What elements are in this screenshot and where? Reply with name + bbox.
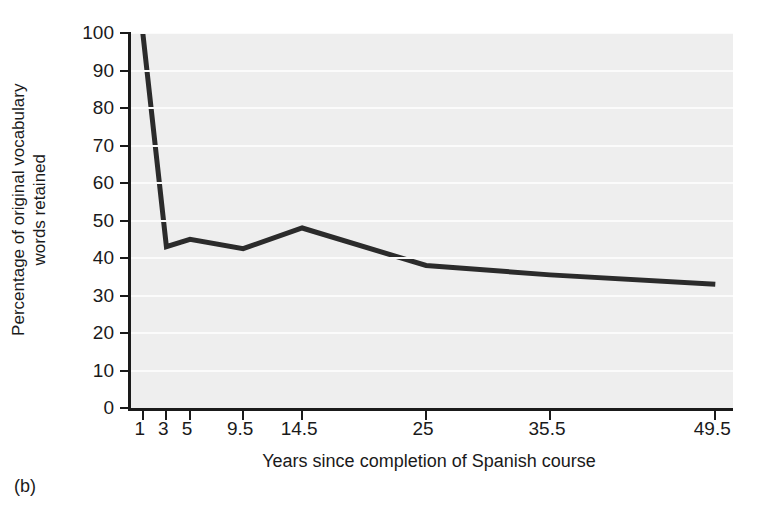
- y-axis-title: Percentage of original vocabulary words …: [0, 0, 60, 420]
- y-axis-tick-label: 50: [93, 210, 114, 232]
- gridline: [131, 370, 733, 372]
- y-axis-title-line-2: words retained: [30, 84, 51, 336]
- gridline: [131, 220, 733, 222]
- x-axis-tick-label: 5: [182, 418, 193, 440]
- y-axis-tick-labels: 0102030405060708090100: [62, 33, 120, 408]
- x-axis-title: Years since completion of Spanish course: [128, 451, 730, 472]
- x-axis-tick-label: 49.5: [694, 418, 731, 440]
- y-axis-tick-label: 100: [82, 22, 114, 44]
- y-axis-tick-label: 40: [93, 247, 114, 269]
- x-axis-tick-label: 9.5: [227, 418, 253, 440]
- plot-inner: [131, 33, 733, 408]
- y-axis-tick-label: 80: [93, 97, 114, 119]
- x-axis-tick-label: 35.5: [529, 418, 566, 440]
- y-axis-tick-label: 10: [93, 360, 114, 382]
- gridline: [131, 257, 733, 259]
- gridline: [131, 107, 733, 109]
- x-axis-tick-label: 14.5: [281, 418, 318, 440]
- gridline: [131, 295, 733, 297]
- x-axis-tick-labels: 1359.514.52535.549.5: [128, 418, 730, 448]
- y-axis-title-line-1: Percentage of original vocabulary: [9, 84, 30, 336]
- y-axis-tick-mark: [120, 257, 131, 259]
- y-axis-tick-mark: [120, 32, 131, 34]
- x-axis-tick-label: 1: [135, 418, 146, 440]
- y-axis-tick-mark: [120, 107, 131, 109]
- gridline: [131, 70, 733, 72]
- x-axis-tick-label: 25: [413, 418, 434, 440]
- gridline: [131, 182, 733, 184]
- y-axis-tick-mark: [120, 220, 131, 222]
- y-axis-tick-label: 30: [93, 285, 114, 307]
- y-axis-tick-mark: [120, 370, 131, 372]
- y-axis-tick-mark: [120, 145, 131, 147]
- y-axis-tick-mark: [120, 332, 131, 334]
- y-axis-tick-label: 60: [93, 172, 114, 194]
- y-axis-tick-mark: [120, 295, 131, 297]
- gridline: [131, 33, 733, 34]
- gridline: [131, 145, 733, 147]
- y-axis-tick-label: 0: [103, 397, 114, 419]
- y-axis-tick-mark: [120, 407, 131, 409]
- y-axis-tick-mark: [120, 182, 131, 184]
- y-axis-tick-mark: [120, 70, 131, 72]
- plot-area: [128, 33, 733, 411]
- x-axis-tick-label: 3: [158, 418, 169, 440]
- y-axis-tick-label: 70: [93, 135, 114, 157]
- y-axis-tick-label: 90: [93, 60, 114, 82]
- panel-caption: (b): [14, 476, 36, 497]
- gridline: [131, 332, 733, 334]
- chart-figure: Percentage of original vocabulary words …: [0, 0, 772, 518]
- y-axis-tick-label: 20: [93, 322, 114, 344]
